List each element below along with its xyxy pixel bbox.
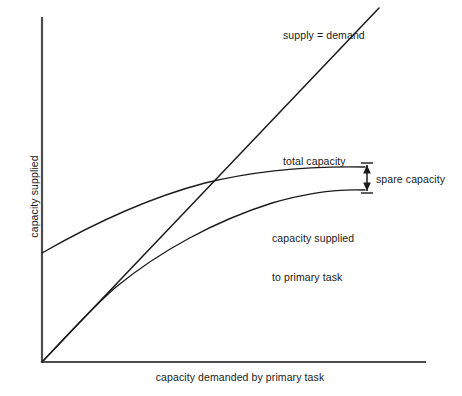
chart-canvas <box>0 0 462 396</box>
annotation-primary-task: capacity supplied to primary task <box>272 206 354 310</box>
annotation-supply-demand: supply = demand <box>283 29 365 42</box>
annotation-primary-task-line1: capacity supplied <box>272 232 354 245</box>
annotation-primary-task-line2: to primary task <box>272 271 354 284</box>
capacity-supply-demand-diagram: supply = demand total capacity spare cap… <box>0 0 462 396</box>
y-axis-label: capacity supplied <box>28 137 41 257</box>
annotation-total-capacity: total capacity <box>283 155 346 168</box>
annotation-spare-capacity: spare capacity <box>376 173 445 186</box>
x-axis-label: capacity demanded by primary task <box>120 371 360 384</box>
